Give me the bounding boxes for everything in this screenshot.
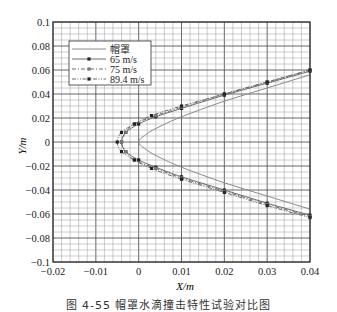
y-tick-label: 0.1 — [37, 17, 50, 28]
data-marker — [223, 92, 226, 95]
data-marker — [137, 158, 140, 161]
y-tick-label: 0.06 — [32, 65, 50, 76]
x-tick-label: 0 — [136, 266, 141, 277]
y-tick-label: 0 — [45, 137, 50, 148]
data-marker — [150, 167, 153, 170]
figure-caption: 图 4-55 帽罩水滴撞击特性试验对比图 — [0, 296, 337, 312]
data-marker — [150, 114, 153, 117]
x-axis-label: X/m — [175, 280, 194, 292]
data-marker — [180, 178, 183, 181]
legend: 帽罩65 m/s75 m/s89.4 m/s — [69, 41, 151, 85]
data-marker — [124, 131, 127, 134]
legend-marker — [87, 77, 90, 80]
data-marker — [124, 150, 127, 153]
data-marker — [154, 167, 157, 170]
y-tick-label: 0.02 — [32, 113, 50, 124]
data-marker — [266, 204, 269, 207]
x-tick-label: 0.02 — [215, 266, 233, 277]
y-tick-label: 0.04 — [32, 89, 51, 100]
data-marker — [133, 122, 136, 125]
data-marker — [223, 191, 226, 194]
x-tick-labels: −0.02−0.0100.010.020.030.04 — [41, 266, 320, 277]
data-marker — [266, 80, 269, 83]
data-marker — [133, 158, 136, 161]
x-tick-label: 0.04 — [301, 266, 320, 277]
x-tick-label: −0.01 — [84, 266, 108, 277]
y-tick-labels: −0.1−0.08−0.06−0.04−0.0200.020.040.060.0… — [26, 17, 51, 268]
data-marker — [116, 140, 119, 143]
data-marker — [120, 140, 123, 143]
legend-marker — [87, 67, 90, 70]
y-tick-label: −0.02 — [26, 161, 50, 172]
y-tick-label: 0.08 — [32, 41, 50, 52]
y-tick-label: −0.08 — [26, 233, 50, 244]
y-tick-label: −0.06 — [26, 209, 50, 220]
data-marker — [120, 150, 123, 153]
legend-marker — [87, 57, 90, 60]
series-line — [117, 70, 310, 218]
y-tick-label: −0.04 — [26, 185, 51, 196]
curves — [116, 68, 312, 219]
data-marker — [120, 131, 123, 134]
legend-label: 89.4 m/s — [110, 74, 145, 85]
y-axis-label: Y/m — [16, 137, 28, 154]
x-tick-label: 0.03 — [258, 266, 276, 277]
x-tick-label: −0.02 — [41, 266, 65, 277]
data-marker — [180, 104, 183, 107]
x-tick-label: 0.01 — [172, 266, 190, 277]
